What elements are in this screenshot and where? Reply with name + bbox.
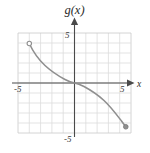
x-axis-label: x [136,79,142,89]
closed-endpoint-marker [124,125,129,130]
y-axis [71,18,78,138]
open-endpoint-marker [27,41,31,45]
x-axis-right-tick-label: 5 [120,84,125,94]
x-axis-left-tick-label: -5 [14,84,22,94]
function-label: g(x) [64,3,84,17]
function-curve [29,44,125,127]
y-axis-top-tick-label: 5 [65,30,70,40]
coordinate-graph-svg: g(x) x 5 -5 -5 5 [0,0,150,153]
y-axis-bottom-tick-label: -5 [64,134,72,144]
graph-figure: g(x) x 5 -5 -5 5 [0,0,150,153]
